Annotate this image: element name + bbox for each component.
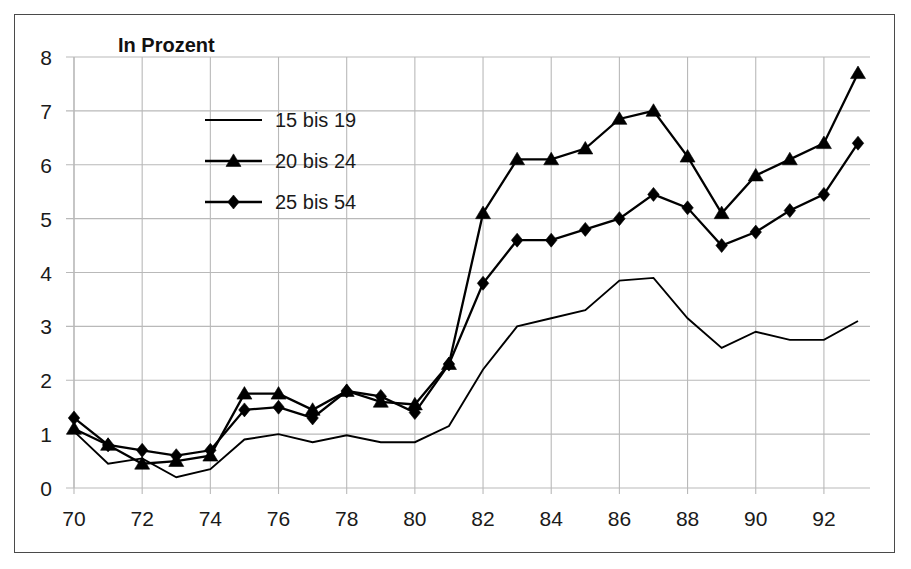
series-markers-20-bis-24: [67, 66, 866, 469]
data-point-85: [580, 222, 591, 236]
y-tick-label-8: 8: [40, 46, 52, 69]
y-tick-label-7: 7: [40, 100, 52, 123]
x-tick-label-78: 78: [335, 507, 358, 530]
series-line-25-bis-54: [74, 143, 858, 455]
legend-marker-diamond: [228, 195, 239, 209]
data-point-87: [646, 104, 661, 117]
y-tick-label-1: 1: [40, 423, 52, 446]
legend-label: 20 bis 24: [275, 150, 356, 172]
data-point-82: [476, 206, 491, 219]
series-line-15-bis-19: [74, 278, 858, 477]
x-axis-tick-labels: 707274767880828486889092: [62, 507, 835, 530]
series-line-20-bis-24: [74, 73, 858, 464]
x-tick-label-88: 88: [676, 507, 699, 530]
legend-item-25-bis-54: 25 bis 54: [205, 191, 356, 213]
y-tick-label-3: 3: [40, 315, 52, 338]
y-tick-label-5: 5: [40, 208, 52, 231]
x-tick-label-72: 72: [130, 507, 153, 530]
data-point-90: [748, 168, 763, 181]
x-tick-label-76: 76: [267, 507, 290, 530]
x-tick-label-82: 82: [471, 507, 494, 530]
y-tick-label-6: 6: [40, 154, 52, 177]
data-point-90: [750, 225, 761, 239]
chart-title: In Prozent: [118, 34, 215, 56]
data-point-86: [614, 212, 625, 226]
x-tick-label-84: 84: [540, 507, 564, 530]
x-tick-label-74: 74: [199, 507, 223, 530]
line-chart: 876543210 707274767880828486889092 In Pr…: [0, 0, 911, 569]
y-axis-tick-labels: 876543210: [40, 46, 52, 500]
x-tick-label-80: 80: [403, 507, 426, 530]
data-point-70: [68, 411, 79, 425]
x-tick-label-92: 92: [812, 507, 835, 530]
data-point-84: [545, 233, 556, 247]
data-point-76: [273, 400, 284, 414]
chart-legend: 15 bis 1920 bis 2425 bis 54: [205, 109, 356, 213]
legend-label: 25 bis 54: [275, 191, 356, 213]
data-point-93: [851, 66, 866, 79]
y-tick-label-0: 0: [40, 477, 52, 500]
series-layer: [67, 66, 866, 477]
y-tick-label-4: 4: [40, 262, 52, 285]
data-point-92: [816, 136, 831, 149]
data-point-72: [136, 443, 147, 457]
legend-item-15-bis-19: 15 bis 19: [205, 109, 356, 131]
legend-item-20-bis-24: 20 bis 24: [205, 150, 356, 172]
data-point-91: [782, 152, 797, 165]
y-tick-label-2: 2: [40, 369, 52, 392]
data-point-87: [648, 187, 659, 201]
legend-label: 15 bis 19: [275, 109, 356, 131]
x-tick-label-90: 90: [744, 507, 767, 530]
data-point-91: [784, 204, 795, 218]
chart-figure: 876543210 707274767880828486889092 In Pr…: [0, 0, 911, 569]
x-tick-label-86: 86: [608, 507, 631, 530]
x-tick-label-70: 70: [62, 507, 85, 530]
series-markers-25-bis-54: [68, 136, 863, 462]
